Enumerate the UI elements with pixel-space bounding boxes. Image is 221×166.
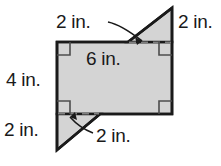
label-middle-6in: 6 in. <box>86 49 120 68</box>
label-left-4in: 4 in. <box>6 70 40 89</box>
label-bottom-left-2in: 2 in. <box>4 120 38 139</box>
label-bottom-right-2in: 2 in. <box>96 126 130 145</box>
label-top-left-2in: 2 in. <box>56 12 90 31</box>
label-top-right-2in: 2 in. <box>178 12 212 31</box>
